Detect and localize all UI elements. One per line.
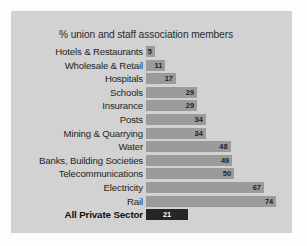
bar-row-label: Insurance <box>11 100 146 111</box>
bar-track: 29 <box>146 100 292 111</box>
bar: 21 <box>146 209 188 220</box>
bar-value-label: 34 <box>195 128 206 139</box>
bar: 5 <box>146 46 155 57</box>
bar-value-label: 49 <box>221 155 232 166</box>
bar-row: Hotels & Restaurants5 <box>11 45 292 58</box>
bar-row: Hospitals17 <box>11 72 292 85</box>
bar-row-label: Hospitals <box>11 73 146 84</box>
bar: 67 <box>146 182 264 193</box>
bar: 34 <box>146 128 206 139</box>
bar-value-label: 29 <box>186 100 197 111</box>
bar-track: 49 <box>146 155 292 166</box>
bar-row: Insurance29 <box>11 99 292 112</box>
bar: 34 <box>146 114 206 125</box>
bar: 29 <box>146 87 197 98</box>
bar-track: 74 <box>146 196 292 207</box>
bar-row-label: Rail <box>11 196 146 207</box>
bar-row: Posts34 <box>11 113 292 126</box>
bar: 17 <box>146 73 176 84</box>
bar-row: Water48 <box>11 140 292 153</box>
bar-row-label: Electricity <box>11 182 146 193</box>
bar-row: All Private Sector21 <box>11 208 292 221</box>
bar-row-label: Schools <box>11 87 146 98</box>
bar-row: Rail74 <box>11 195 292 208</box>
bar-value-label: 48 <box>219 141 230 152</box>
chart-page: % union and staff association members Ho… <box>0 0 307 246</box>
bar-row-label: Wholesale & Retail <box>11 60 146 71</box>
bar-value-label: 34 <box>195 114 206 125</box>
chart-title: % union and staff association members <box>11 29 281 40</box>
bar-row-label: Telecommunications <box>11 168 146 179</box>
bar-row: Electricity67 <box>11 181 292 194</box>
bar: 48 <box>146 141 231 152</box>
bar-track: 48 <box>146 141 292 152</box>
bar-track: 17 <box>146 73 292 84</box>
bar-row-label: Hotels & Restaurants <box>11 46 146 57</box>
bar-row: Schools29 <box>11 86 292 99</box>
bar-value-label: 50 <box>223 168 234 179</box>
bar-track: 21 <box>146 209 292 220</box>
bar-value-label: 17 <box>165 73 176 84</box>
bar-track: 29 <box>146 87 292 98</box>
bar: 49 <box>146 155 232 166</box>
bar-row: Banks, Building Societies49 <box>11 154 292 167</box>
bar-row: Telecommunications50 <box>11 167 292 180</box>
bar: 74 <box>146 196 276 207</box>
bar: 11 <box>146 60 165 71</box>
bar-track: 67 <box>146 182 292 193</box>
bar-value-label: 11 <box>155 60 166 71</box>
bar-track: 50 <box>146 168 292 179</box>
bar-value-label: 29 <box>186 87 197 98</box>
bar-track: 5 <box>146 46 292 57</box>
bar-row: Mining & Quarrying34 <box>11 127 292 140</box>
bar-row-label: Water <box>11 141 146 152</box>
bar-value-label: 67 <box>253 182 264 193</box>
bar-value-label: 74 <box>265 196 276 207</box>
bar-track: 34 <box>146 128 292 139</box>
bar: 29 <box>146 100 197 111</box>
bar-row-label: Mining & Quarrying <box>11 128 146 139</box>
bar-row-label: Posts <box>11 114 146 125</box>
bar-value-label: 5 <box>148 46 155 57</box>
bar-rows: Hotels & Restaurants5Wholesale & Retail1… <box>11 45 292 222</box>
bar-track: 34 <box>146 114 292 125</box>
bar-value-label: 21 <box>163 209 171 220</box>
bar-track: 11 <box>146 60 292 71</box>
bar-row-label: All Private Sector <box>11 209 146 220</box>
bar: 50 <box>146 168 234 179</box>
chart-panel: % union and staff association members Ho… <box>11 11 292 233</box>
bar-row-label: Banks, Building Societies <box>11 155 146 166</box>
bar-row: Wholesale & Retail11 <box>11 59 292 72</box>
